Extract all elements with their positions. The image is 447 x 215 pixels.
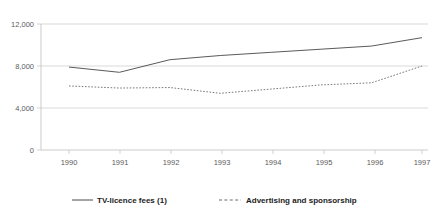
- x-axis-labels-group: 1990 1991 1992 1993 1994 1995 1996 1997: [61, 158, 431, 167]
- x-tickmarks-group: [69, 150, 422, 154]
- y-axis-labels-group: 12,000 8,000 4,000 0: [11, 20, 34, 155]
- series-line-tv-licence-fees: [69, 38, 422, 73]
- x-tick-label-1990: 1990: [61, 158, 78, 167]
- x-tick-label-1996: 1996: [367, 158, 384, 167]
- y-tick-label-0: 0: [30, 146, 34, 155]
- y-tick-label-4000: 4,000: [15, 104, 34, 113]
- x-tick-label-1997: 1997: [414, 158, 431, 167]
- x-tick-label-1991: 1991: [112, 158, 129, 167]
- y-tickmarks-group: [37, 24, 41, 150]
- y-tick-label-8000: 8,000: [15, 62, 34, 71]
- x-tick-label-1995: 1995: [316, 158, 333, 167]
- x-tick-label-1994: 1994: [265, 158, 282, 167]
- chart-plot-svg: 12,000 8,000 4,000 0 1990 1991 1992 1993…: [0, 0, 447, 215]
- legend-label-advertising-and-sponsorship: Advertising and sponsorship: [246, 196, 357, 205]
- x-tick-label-1993: 1993: [214, 158, 231, 167]
- series-line-advertising-and-sponsorship: [69, 66, 422, 93]
- legend-label-tv-licence-fees: TV-licence fees (1): [97, 196, 167, 205]
- x-tick-label-1992: 1992: [163, 158, 180, 167]
- y-tick-label-12000: 12,000: [11, 20, 34, 29]
- chart-legend: TV-licence fees (1) Advertising and spon…: [72, 196, 357, 205]
- line-chart-figure: 12,000 8,000 4,000 0 1990 1991 1992 1993…: [0, 0, 447, 215]
